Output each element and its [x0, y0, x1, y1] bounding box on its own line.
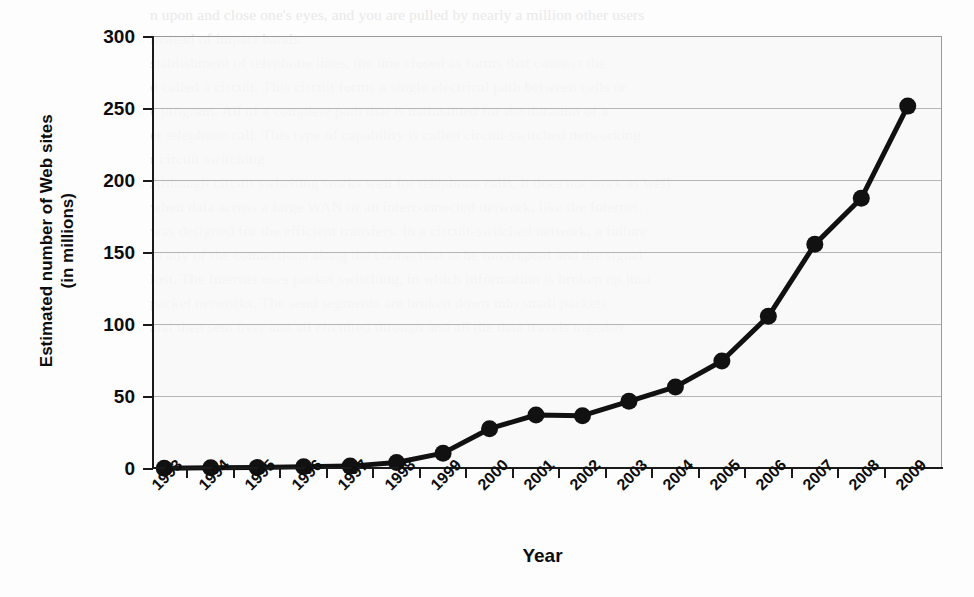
x-axis-tick: [465, 469, 467, 478]
plot-area: [152, 36, 942, 468]
data-point: [667, 378, 684, 395]
y-tick-label-250: 250: [75, 99, 135, 118]
data-point: [574, 407, 591, 424]
y-tick-label-100: 100: [75, 315, 135, 334]
y-tick-label-50: 50: [75, 387, 135, 406]
x-axis-tick: [605, 469, 607, 478]
x-axis-tick: [372, 469, 374, 478]
x-axis-tick: [186, 469, 188, 478]
y-axis-title: Estimated number of Web sites (in millio…: [37, 41, 78, 441]
x-axis-tick: [837, 469, 839, 478]
y-tick-label-0: 0: [75, 459, 135, 478]
data-point: [853, 190, 870, 207]
data-point: [760, 308, 777, 325]
x-axis-tick: [744, 469, 746, 478]
y-tick-label-300: 300: [75, 27, 135, 46]
x-axis-tick: [698, 469, 700, 478]
x-axis-tick: [791, 469, 793, 478]
x-axis-tick: [326, 469, 328, 478]
data-point: [481, 420, 498, 437]
series-markers: [156, 98, 917, 477]
y-tick-label-200: 200: [75, 171, 135, 190]
data-point: [899, 98, 916, 115]
y-axis-line: [152, 36, 154, 469]
data-point: [713, 353, 730, 370]
data-point: [806, 236, 823, 253]
data-point: [620, 393, 637, 410]
line-chart-figure: Estimated number of Web sites (in millio…: [0, 0, 974, 597]
x-axis-tick: [233, 469, 235, 478]
x-axis-tick: [279, 469, 281, 478]
x-axis-title: Year: [0, 545, 974, 567]
y-tick-label-150: 150: [75, 243, 135, 262]
data-point: [528, 407, 545, 424]
x-axis-tick: [651, 469, 653, 478]
x-axis-tick: [558, 469, 560, 478]
x-axis-tick: [884, 469, 886, 478]
y-axis-title-line-1: Estimated number of Web sites: [37, 41, 58, 441]
x-axis-tick: [512, 469, 514, 478]
x-axis-tick: [419, 469, 421, 478]
data-series-websites: [153, 37, 943, 469]
